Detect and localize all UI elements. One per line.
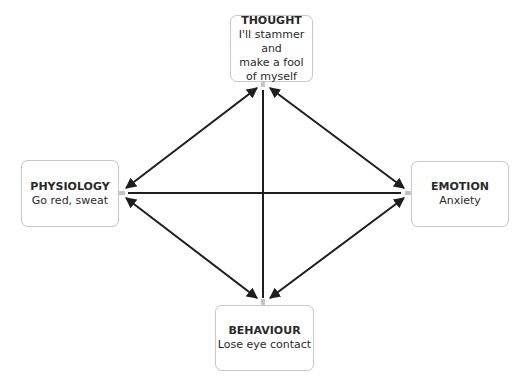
node-body: I'll stammer and make a fool of myself (231, 28, 312, 84)
node-body: Lose eye contact (218, 338, 311, 352)
arrow-emotion-behaviour (270, 198, 404, 298)
node-thought: THOUGHT I'll stammer and make a fool of … (230, 15, 313, 82)
node-title: PHYSIOLOGY (30, 180, 109, 194)
node-title: BEHAVIOUR (228, 324, 300, 338)
node-behaviour: BEHAVIOUR Lose eye contact (215, 305, 314, 371)
connector-stub-physiology (119, 191, 125, 195)
node-body: Anxiety (439, 194, 481, 208)
arrow-thought-physiology (126, 88, 257, 188)
node-physiology: PHYSIOLOGY Go red, sweat (21, 160, 119, 227)
node-body: Go red, sweat (32, 194, 108, 208)
arrow-physiology-behaviour (126, 198, 257, 298)
node-title: EMOTION (431, 180, 489, 194)
node-emotion: EMOTION Anxiety (411, 161, 509, 227)
node-title: THOUGHT (241, 14, 302, 28)
arrow-thought-emotion (270, 88, 404, 188)
